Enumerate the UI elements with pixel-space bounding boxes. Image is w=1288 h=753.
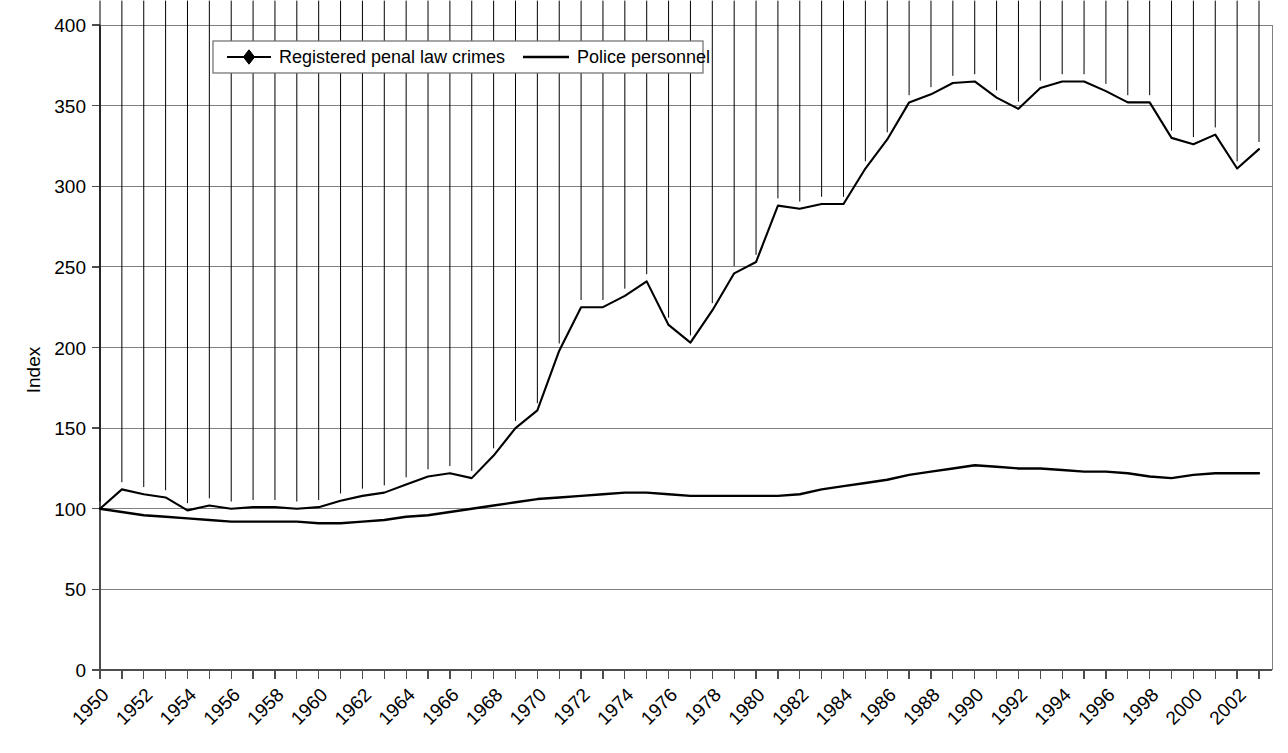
series-layer (100, 1, 1259, 524)
x-axis-tick-label: 2002 (1205, 684, 1250, 729)
x-axis-tick-label: 1978 (680, 684, 725, 729)
y-axis-title-group: Index (23, 346, 44, 393)
x-axis-tick-label: 1964 (374, 684, 419, 729)
x-axis-tick-label: 1956 (199, 684, 244, 729)
x-axis-tick-label: 1998 (1118, 684, 1163, 729)
x-axis-tick-label: 1950 (68, 684, 113, 729)
x-axis-tick-label: 1992 (987, 684, 1032, 729)
x-axis-tick-label: 1968 (462, 684, 507, 729)
x-axis-tick-label: 1980 (724, 684, 769, 729)
x-axis-tick-label: 1990 (943, 684, 988, 729)
line-chart: 050100150200250300350400 195019521954195… (0, 0, 1288, 753)
x-axis-tick-label: 1988 (899, 684, 944, 729)
y-axis-tick-label: 400 (54, 15, 86, 36)
series-line-police-personnel (100, 465, 1259, 523)
x-axis-tick-label: 1972 (549, 684, 594, 729)
y-axis-ticks: 050100150200250300350400 (54, 15, 100, 681)
legend-label-police: Police personnel (577, 47, 710, 67)
gridlines-group (100, 25, 1272, 589)
x-axis-tick-label: 1982 (768, 684, 813, 729)
x-axis-tick-label: 1984 (812, 684, 857, 729)
x-axis-tick-label: 1966 (418, 684, 463, 729)
x-axis-tick-label: 1970 (505, 684, 550, 729)
x-axis-tick-label: 1954 (156, 684, 201, 729)
x-axis-ticks: 1950195219541956195819601962196419661968… (68, 670, 1259, 729)
y-axis-tick-label: 200 (54, 338, 86, 359)
x-axis-tick-label: 1996 (1074, 684, 1119, 729)
y-axis-tick-label: 350 (54, 96, 86, 117)
y-axis-tick-label: 150 (54, 418, 86, 439)
x-axis-tick-label: 1976 (637, 684, 682, 729)
legend-label-crimes: Registered penal law crimes (279, 47, 505, 67)
x-axis-tick-label: 1994 (1030, 684, 1075, 729)
x-axis-tick-label: 1952 (112, 684, 157, 729)
x-axis-tick-label: 1962 (330, 684, 375, 729)
chart-legend: Registered penal law crimesPolice person… (213, 41, 710, 73)
y-axis-tick-label: 0 (75, 660, 86, 681)
x-axis-tick-label: 1974 (593, 684, 638, 729)
series-line-registered-penal-law-crimes (100, 81, 1259, 510)
y-axis-tick-label: 100 (54, 499, 86, 520)
y-axis-tick-label: 250 (54, 257, 86, 278)
chart-container: 050100150200250300350400 195019521954195… (0, 0, 1288, 753)
x-axis-tick-label: 1986 (855, 684, 900, 729)
x-axis-tick-label: 1960 (287, 684, 332, 729)
y-axis-tick-label: 300 (54, 176, 86, 197)
y-axis-title: Index (23, 346, 44, 393)
x-axis-tick-label: 2000 (1161, 684, 1206, 729)
x-axis-tick-label: 1958 (243, 684, 288, 729)
y-axis-tick-label: 50 (65, 579, 86, 600)
